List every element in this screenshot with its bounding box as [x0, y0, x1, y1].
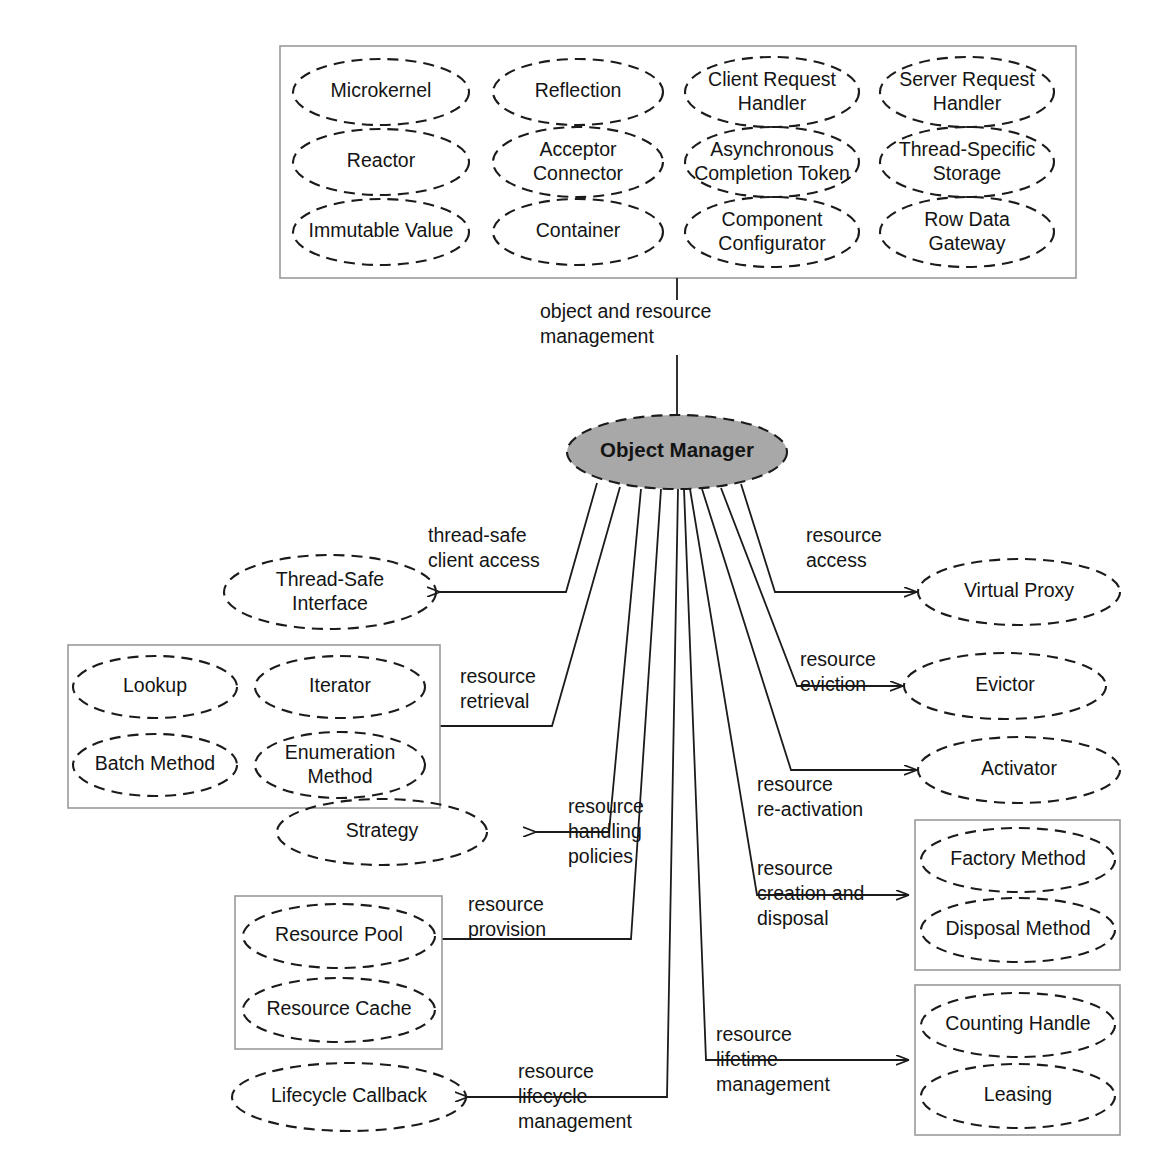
label-line-2: retrieval: [460, 690, 529, 712]
pattern-label-line2: Interface: [292, 592, 368, 614]
pattern-label: Iterator: [309, 674, 371, 696]
label-line-1: resource: [518, 1060, 594, 1082]
pattern-label-line2: Handler: [933, 92, 1002, 114]
pattern-label-line1: Acceptor: [540, 138, 617, 160]
pattern-label-line2: Configurator: [718, 232, 826, 254]
pattern-label: Lifecycle Callback: [271, 1084, 427, 1106]
label-line-1: resource: [568, 795, 644, 817]
edge-label-object-and-resource-management: object and resource management: [540, 300, 711, 347]
edge-label-resource-access: resource access: [806, 524, 882, 571]
pattern-label: Lookup: [123, 674, 187, 696]
group-box-resource-provision: [235, 896, 442, 1049]
group-box-resource-creation-and-disposal: [915, 820, 1120, 970]
edge-label-thread-safe-client-access: thread-safe client access: [428, 524, 540, 571]
edge-label-resource-provision: resource provision: [468, 893, 546, 940]
connector-resource-handling-policies: [536, 489, 641, 832]
pattern-label: Counting Handle: [945, 1012, 1090, 1034]
label-line-1: resource: [468, 893, 544, 915]
pattern-label-line1: Thread-Specific: [899, 138, 1036, 160]
pattern-label: Resource Pool: [275, 923, 403, 945]
pattern-label: Activator: [981, 757, 1057, 779]
edge-label-resource-creation-and-disposal: resource creation and disposal: [757, 857, 864, 929]
pattern-label-line2: Method: [307, 765, 372, 787]
label-line-3: disposal: [757, 907, 829, 929]
edge-label-resource-re-activation: resource re-activation: [757, 773, 863, 820]
label-line-1: object and resource: [540, 300, 711, 322]
pattern-label: Disposal Method: [945, 917, 1090, 939]
pattern-label-line1: Enumeration: [285, 741, 396, 763]
pattern-label: Reactor: [347, 149, 416, 171]
pattern-label-line2: Completion Token: [694, 162, 850, 184]
label-line-2: lifecycle: [518, 1085, 587, 1107]
label-line-2: management: [540, 325, 654, 347]
pattern-label: Virtual Proxy: [964, 579, 1074, 601]
pattern-label: Reflection: [535, 79, 622, 101]
pattern-node-thread-safe-interface[interactable]: Thread-Safe Interface: [224, 555, 436, 629]
label-line-2: eviction: [800, 673, 866, 695]
label-line-3: policies: [568, 845, 633, 867]
pattern-label-line2: Connector: [533, 162, 623, 184]
label-line-3: management: [518, 1110, 632, 1132]
object-manager-label: Object Manager: [600, 438, 754, 461]
pattern-label: Resource Cache: [266, 997, 411, 1019]
pattern-label-line2: Gateway: [929, 232, 1006, 254]
pattern-label-line2: Handler: [738, 92, 807, 114]
pattern-node-lifecycle-callback[interactable]: Lifecycle Callback: [232, 1063, 466, 1131]
pattern-label: Strategy: [346, 819, 419, 841]
pattern-label-line1: Asynchronous: [710, 138, 834, 160]
label-line-2: handling: [568, 820, 642, 842]
pattern-label: Factory Method: [950, 847, 1085, 869]
label-line-2: client access: [428, 549, 540, 571]
group-box-resource-retrieval: [68, 645, 440, 808]
label-line-2: creation and: [757, 882, 864, 904]
connector-resource-lifecycle-management: [468, 489, 678, 1097]
label-line-1: resource: [806, 524, 882, 546]
pattern-label-line1: Component: [722, 208, 823, 230]
label-line-1: resource: [716, 1023, 792, 1045]
pattern-label-line2: Storage: [933, 162, 1001, 184]
pattern-node-strategy[interactable]: Strategy: [277, 799, 487, 865]
pattern-node-evictor[interactable]: Evictor: [904, 653, 1106, 719]
edge-label-resource-eviction: resource eviction: [800, 648, 876, 695]
label-line-2: access: [806, 549, 867, 571]
label-line-1: resource: [460, 665, 536, 687]
pattern-label: Microkernel: [331, 79, 432, 101]
edge-label-resource-handling-policies: resource handling policies: [568, 795, 644, 867]
group-box-resource-lifetime-management: [915, 985, 1120, 1135]
label-line-2: provision: [468, 918, 546, 940]
pattern-node-virtual-proxy[interactable]: Virtual Proxy: [918, 559, 1120, 625]
pattern-label: Evictor: [975, 673, 1035, 695]
label-line-1: thread-safe: [428, 524, 527, 546]
label-line-2: lifetime: [716, 1048, 778, 1070]
pattern-label-line1: Thread-Safe: [276, 568, 384, 590]
label-line-2: re-activation: [757, 798, 863, 820]
pattern-label: Batch Method: [95, 752, 215, 774]
pattern-node-activator[interactable]: Activator: [918, 737, 1120, 803]
label-line-1: resource: [800, 648, 876, 670]
pattern-label: Immutable Value: [309, 219, 454, 241]
label-line-3: management: [716, 1073, 830, 1095]
label-line-1: resource: [757, 773, 833, 795]
edge-label-resource-retrieval: resource retrieval: [460, 665, 536, 712]
label-line-1: resource: [757, 857, 833, 879]
pattern-label: Container: [536, 219, 621, 241]
pattern-label: Leasing: [984, 1083, 1052, 1105]
diagram-canvas: Microkernel Reflection Client Request Ha…: [0, 0, 1159, 1173]
pattern-label-line1: Client Request: [708, 68, 836, 90]
pattern-label-line1: Row Data: [924, 208, 1010, 230]
pattern-label-line1: Server Request: [899, 68, 1035, 90]
pattern-map-diagram: Microkernel Reflection Client Request Ha…: [0, 0, 1159, 1173]
